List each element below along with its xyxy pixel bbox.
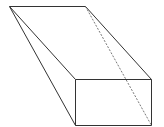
- edges-group: [10, 7, 152, 126]
- edge-AE: [10, 7, 76, 126]
- edge-BD: [86, 7, 152, 80]
- geometric-solid-diagram: [0, 0, 164, 127]
- edge-AC: [10, 7, 76, 80]
- edge-BF: [86, 7, 152, 126]
